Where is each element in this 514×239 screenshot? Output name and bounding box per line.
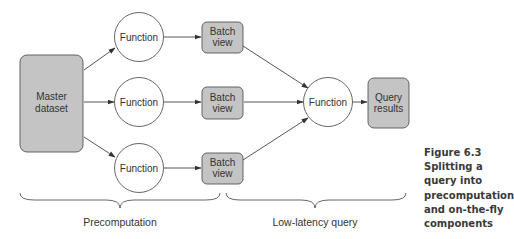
low-latency-brace	[226, 193, 406, 208]
batch-view-node-mid: Batch view	[202, 87, 243, 119]
edge-batch-bot-to-merge	[243, 118, 308, 160]
query-results-line1: Query	[375, 92, 402, 103]
caption-line: Splitting a	[424, 160, 509, 174]
edge-batch-top-to-merge	[243, 46, 308, 88]
braces	[20, 193, 406, 208]
figure-caption: Figure 6.3 Splitting a query into precom…	[424, 146, 509, 231]
caption-line: precomputation	[424, 189, 509, 203]
batch-view-node-bot: Batch view	[202, 153, 243, 184]
master-dataset-node: Master dataset	[20, 55, 83, 152]
function-merge-label: Function	[309, 97, 347, 108]
batch-view-top-line2: view	[212, 37, 233, 48]
precomputation-brace	[20, 193, 220, 208]
function-bot-label: Function	[120, 163, 158, 174]
batch-view-mid-line1: Batch	[210, 92, 236, 103]
caption-line: Figure 6.3	[424, 146, 509, 160]
function-node-mid: Function	[115, 78, 164, 127]
query-results-node: Query results	[368, 78, 409, 128]
batch-view-mid-line2: view	[212, 103, 233, 114]
edge-master-to-function-bot	[84, 137, 115, 157]
precomputation-label: Precomputation	[83, 216, 157, 228]
function-node-top: Function	[115, 13, 164, 62]
batch-view-bot-line2: view	[212, 168, 233, 179]
low-latency-query-label: Low-latency query	[272, 216, 358, 228]
master-dataset-label-line2: dataset	[35, 103, 68, 114]
function-mid-label: Function	[120, 97, 158, 108]
function-node-bot: Function	[115, 144, 164, 193]
function-node-merge: Function	[304, 78, 353, 127]
caption-line: and on-the-fly	[424, 203, 509, 217]
batch-view-node-top: Batch view	[202, 22, 243, 53]
caption-line: components	[424, 217, 509, 231]
edge-master-to-function-top	[84, 48, 115, 70]
query-results-line2: results	[374, 103, 403, 114]
batch-view-top-line1: Batch	[210, 26, 236, 37]
caption-line: query into	[424, 174, 509, 188]
function-top-label: Function	[120, 32, 158, 43]
batch-view-bot-line1: Batch	[210, 157, 236, 168]
master-dataset-label-line1: Master	[36, 91, 67, 102]
